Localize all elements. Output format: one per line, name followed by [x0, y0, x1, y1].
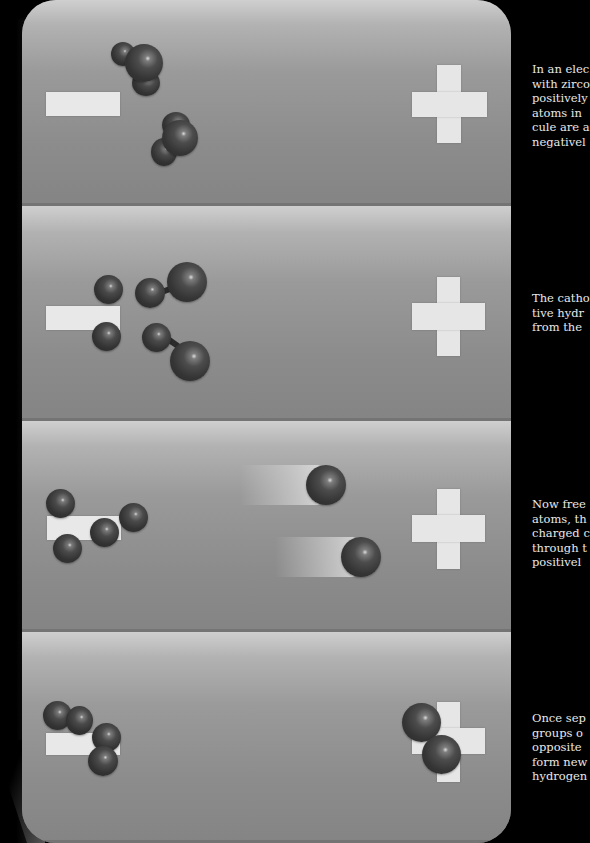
caption-panel-1: In an elec with zirco positively atoms i… [532, 62, 590, 149]
diagram-panel-4 [22, 632, 511, 843]
hydrogen-ion [94, 275, 123, 304]
hydrogen-atom [135, 278, 165, 308]
plus-icon-horizontal [412, 92, 487, 117]
plus-icon-horizontal [412, 303, 485, 330]
hydrogen-ion [90, 518, 119, 547]
electrolysis-diagram-board [22, 0, 511, 843]
hydrogen-ion [119, 503, 148, 532]
hydrogen-atom [66, 706, 93, 735]
diagram-panel-3 [22, 421, 511, 632]
caption-panel-2: The catho tive hydr from the [532, 291, 590, 335]
oxygen-atom [162, 120, 198, 156]
diagram-panel-2 [22, 206, 511, 421]
hydrogen-atom [142, 323, 171, 352]
plus-icon-horizontal [412, 515, 485, 542]
hydrogen-ion [53, 534, 82, 563]
oxygen-atom [422, 735, 461, 774]
hydrogen-atom [88, 746, 118, 776]
caption-panel-4: Once sep groups o opposite form new hydr… [532, 711, 587, 784]
minus-icon [46, 92, 120, 116]
oxygen-atom [125, 44, 163, 82]
oxygen-atom [170, 341, 210, 381]
hydrogen-ion [46, 489, 75, 518]
hydrogen-ion [92, 322, 121, 351]
oxygen-atom [167, 262, 207, 302]
oxygen-ion-migrating [341, 537, 381, 577]
caption-panel-3: Now free atoms, th charged c through t p… [532, 497, 590, 570]
diagram-panel-1 [22, 0, 511, 206]
oxygen-ion-migrating [306, 465, 346, 505]
